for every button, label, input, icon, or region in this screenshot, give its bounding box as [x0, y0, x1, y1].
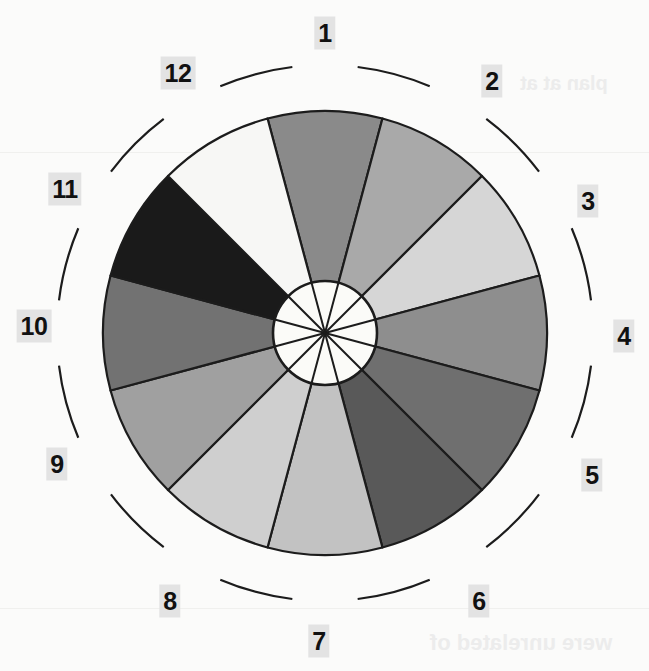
tick-label-9[interactable]: 9	[46, 448, 67, 481]
figure-canvas: plan at atwere unrelated of 123456789101…	[0, 0, 649, 671]
outer-ring-arc-3	[572, 228, 591, 300]
tick-label-6[interactable]: 6	[468, 585, 489, 618]
outer-ring-arc-11	[111, 119, 164, 172]
outer-ring-arc-6	[358, 580, 430, 599]
tick-label-11[interactable]: 11	[48, 173, 81, 206]
outer-ring-arc-7	[220, 580, 292, 599]
wheel-diagram	[0, 0, 649, 671]
tick-label-4[interactable]: 4	[613, 320, 634, 353]
outer-ring-arc-5	[486, 494, 539, 547]
tick-label-1[interactable]: 1	[314, 17, 335, 50]
outer-ring-arc-9	[59, 366, 78, 438]
outer-ring-arc-10	[59, 228, 78, 300]
outer-ring-arc-8	[111, 494, 164, 547]
tick-label-3[interactable]: 3	[577, 185, 598, 218]
tick-label-2[interactable]: 2	[481, 65, 502, 98]
tick-label-5[interactable]: 5	[581, 459, 602, 492]
tick-label-12[interactable]: 12	[161, 57, 196, 90]
outer-ring-arc-1	[358, 67, 430, 86]
tick-label-7[interactable]: 7	[308, 625, 329, 658]
outer-ring-arc-2	[486, 119, 539, 172]
tick-label-8[interactable]: 8	[159, 585, 180, 618]
outer-ring-arc-12	[220, 67, 292, 86]
outer-ring-arc-4	[572, 366, 591, 438]
tick-label-10[interactable]: 10	[17, 310, 52, 343]
